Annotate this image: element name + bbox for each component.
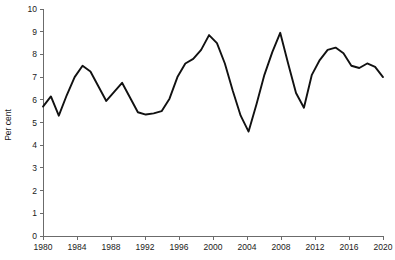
x-tick-label: 1980 [34,242,53,252]
y-tick-label: 10 [28,4,38,14]
x-tick-label: 1996 [170,242,189,252]
y-tick-label: 6 [32,95,37,105]
x-tick-label: 2016 [340,242,359,252]
y-tick-label: 5 [32,118,37,128]
x-tick-label: 1992 [136,242,155,252]
x-tick-label: 2012 [306,242,325,252]
data-series-line [43,33,383,132]
y-tick-label: 1 [32,208,37,218]
x-tick-label: 2000 [204,242,223,252]
x-tick-label: 1984 [68,242,87,252]
x-axis: 1980198419881992199620002004200820122016… [34,236,393,252]
chart-container: Per cent 012345678910 198019841988199219… [0,0,395,260]
x-tick-label: 2008 [272,242,291,252]
x-tick-label: 2020 [374,242,393,252]
y-tick-label: 7 [32,72,37,82]
y-tick-label: 8 [32,49,37,59]
y-axis-title-group: Per cent [3,109,13,141]
x-tick-label: 1988 [102,242,121,252]
y-tick-label: 4 [32,140,37,150]
y-tick-label: 2 [32,186,37,196]
x-tick-label: 2004 [238,242,257,252]
y-tick-label: 9 [32,27,37,37]
line-chart: Per cent 012345678910 198019841988199219… [0,0,395,260]
y-tick-label: 0 [32,231,37,241]
y-tick-label: 3 [32,163,37,173]
y-axis-title: Per cent [3,109,13,141]
y-axis: 012345678910 [28,4,43,241]
